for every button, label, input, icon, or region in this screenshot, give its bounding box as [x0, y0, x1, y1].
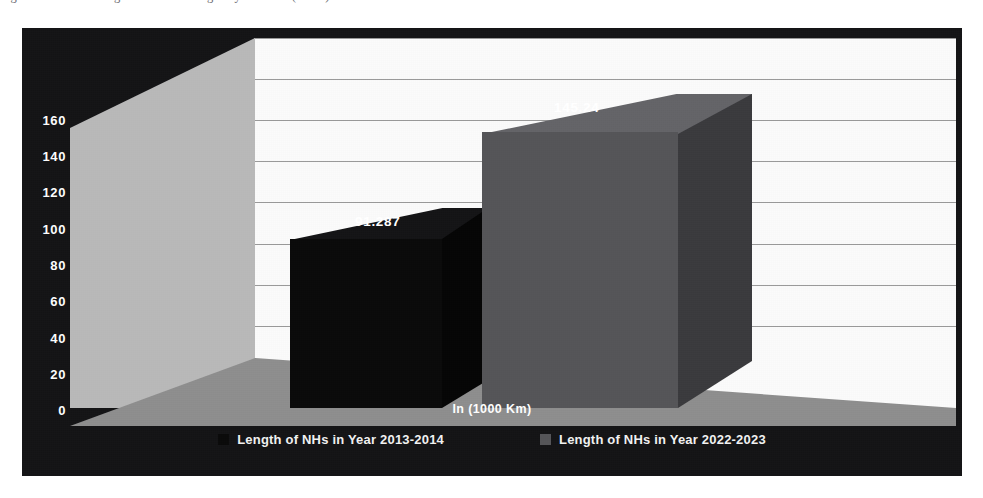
legend-label-series-2: Length of NHs in Year 2022-2023 [559, 432, 766, 447]
y-tick-20: 20 [50, 367, 66, 382]
y-tick-40: 40 [50, 331, 66, 346]
bar-1-value-label: 91.287 [355, 214, 401, 229]
y-tick-160: 160 [43, 113, 67, 128]
legend-item-2022-2023[interactable]: Length of NHs in Year 2022-2023 [540, 432, 766, 447]
bar-series-2[interactable] [482, 94, 752, 408]
y-tick-80: 80 [50, 258, 66, 273]
chart-3d-scene: 91.287 145.24 160 140 120 100 80 60 40 [22, 28, 962, 476]
bar-2-value-label: 145.24 [554, 100, 600, 115]
bar-2-side-face [678, 94, 752, 408]
y-tick-100: 100 [43, 222, 67, 237]
bar-series-1[interactable] [290, 208, 488, 408]
y-tick-120: 120 [43, 185, 67, 200]
plot-left-wall [70, 38, 255, 408]
legend-swatch-icon-series-2 [540, 434, 551, 445]
gridline-160 [254, 38, 956, 39]
chart-page: Figure : Growth in length of National Hi… [0, 0, 983, 498]
chart-frame: 91.287 145.24 160 140 120 100 80 60 40 [22, 28, 962, 476]
legend-swatch-icon-series-1 [218, 434, 229, 445]
gridline-140 [254, 79, 956, 80]
legend-label-series-1: Length of NHs in Year 2013-2014 [237, 432, 444, 447]
legend-item-2013-2014[interactable]: Length of NHs in Year 2013-2014 [218, 432, 444, 447]
chart-legend: Length of NHs in Year 2013-2014 Length o… [22, 432, 962, 447]
bar-2-front-face [482, 132, 678, 408]
figure-caption-cutoff: Figure : Growth in length of National Hi… [0, 0, 983, 5]
x-axis-title: In (1000 Km) [22, 402, 962, 416]
bar-1-front-face [290, 239, 442, 408]
y-tick-140: 140 [43, 149, 67, 164]
y-tick-60: 60 [50, 294, 66, 309]
